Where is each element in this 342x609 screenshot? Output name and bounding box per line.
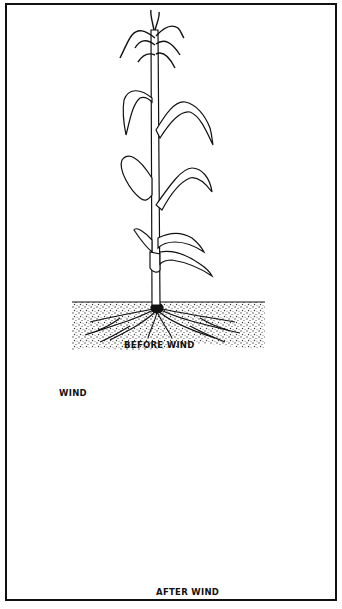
figure-illustration (0, 0, 342, 609)
caption-fragment (0, 603, 342, 609)
corn-plant-upright (120, 10, 213, 305)
label-after-wind: AFTER WIND (156, 587, 219, 597)
label-wind: WIND (59, 388, 87, 398)
label-before-wind: BEFORE WIND (124, 340, 195, 350)
